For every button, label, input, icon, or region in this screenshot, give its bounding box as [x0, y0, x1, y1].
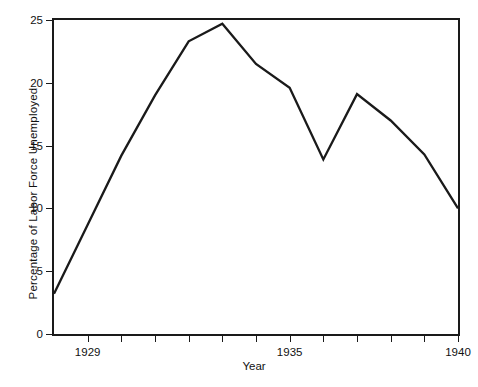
- x-axis-tick: [88, 334, 89, 342]
- y-axis-tick-label: 5: [37, 265, 43, 277]
- y-axis-tick: [46, 334, 54, 335]
- y-axis-tick: [46, 20, 54, 21]
- unemployment-series-line: [54, 24, 458, 294]
- x-axis-tick: [290, 334, 291, 342]
- x-axis-tick: [391, 334, 392, 342]
- x-axis-tick-label: 1940: [445, 346, 471, 358]
- y-axis-tick-label: 25: [30, 14, 43, 26]
- plot-inner: 0510152025192919351940: [54, 20, 458, 334]
- x-axis-tick-label: 1929: [75, 346, 101, 358]
- x-axis-title: Year: [52, 360, 456, 372]
- x-axis-tick: [323, 334, 324, 342]
- y-axis-tick-label: 15: [30, 140, 43, 152]
- y-axis-tick: [46, 208, 54, 209]
- y-axis-tick-label: 0: [37, 328, 43, 340]
- y-axis-tick: [46, 271, 54, 272]
- x-axis-tick: [155, 334, 156, 342]
- y-axis-tick: [46, 146, 54, 147]
- x-axis-tick: [458, 334, 459, 342]
- unemployment-line-chart: Percentage of Labor Force Unemployed Yea…: [0, 0, 478, 387]
- x-axis-tick: [222, 334, 223, 342]
- x-axis-tick-label: 1935: [277, 346, 303, 358]
- x-axis-tick: [357, 334, 358, 342]
- data-line-svg: [54, 20, 458, 334]
- x-axis-tick: [121, 334, 122, 342]
- x-axis-tick: [424, 334, 425, 342]
- y-axis-tick-label: 20: [30, 77, 43, 89]
- x-axis-tick: [256, 334, 257, 342]
- plot-area: 0510152025192919351940: [52, 18, 460, 336]
- y-axis-tick-label: 10: [30, 202, 43, 214]
- y-axis-tick: [46, 83, 54, 84]
- x-axis-tick: [189, 334, 190, 342]
